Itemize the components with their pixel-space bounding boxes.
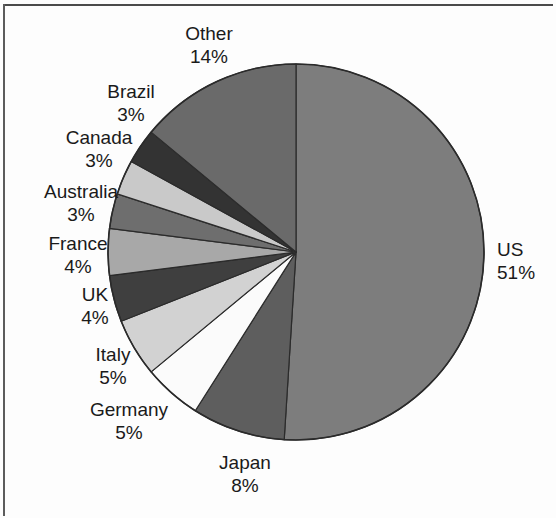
slice-label-us-percent: 51% xyxy=(497,261,553,284)
slice-label-other-percent: 14% xyxy=(149,45,269,68)
slice-label-italy-percent: 5% xyxy=(58,366,168,389)
slice-label-canada-name: Canada xyxy=(44,126,154,149)
slice-label-australia: Australia 3% xyxy=(22,180,140,226)
slice-label-japan-name: Japan xyxy=(190,451,300,474)
slice-label-other: Other 14% xyxy=(149,22,269,68)
slice-label-france-name: France xyxy=(23,232,133,255)
slice-label-germany-name: Germany xyxy=(64,398,194,421)
slice-label-canada: Canada 3% xyxy=(44,126,154,172)
slice-label-france: France 4% xyxy=(23,232,133,278)
slice-label-other-name: Other xyxy=(149,22,269,45)
slice-label-us-name: US xyxy=(497,238,553,261)
slice-label-germany-percent: 5% xyxy=(64,421,194,444)
slice-label-france-percent: 4% xyxy=(23,255,133,278)
slice-label-italy: Italy 5% xyxy=(58,343,168,389)
slice-label-germany: Germany 5% xyxy=(64,398,194,444)
slice-label-us: US 51% xyxy=(497,238,553,284)
slice-label-uk: UK 4% xyxy=(40,283,150,329)
slice-label-japan-percent: 8% xyxy=(190,474,300,497)
slice-label-brazil: Brazil 3% xyxy=(76,80,186,126)
slice-label-brazil-name: Brazil xyxy=(76,80,186,103)
slice-label-japan: Japan 8% xyxy=(190,451,300,497)
slice-label-australia-percent: 3% xyxy=(22,203,140,226)
slice-label-uk-percent: 4% xyxy=(40,306,150,329)
pie-chart-figure: Other 14% Brazil 3% Canada 3% Australia … xyxy=(0,0,556,518)
slice-label-uk-name: UK xyxy=(40,283,150,306)
pie-slice-us xyxy=(284,64,484,440)
slice-label-canada-percent: 3% xyxy=(44,149,154,172)
slice-label-australia-name: Australia xyxy=(22,180,140,203)
slice-label-italy-name: Italy xyxy=(58,343,168,366)
slice-label-brazil-percent: 3% xyxy=(76,103,186,126)
